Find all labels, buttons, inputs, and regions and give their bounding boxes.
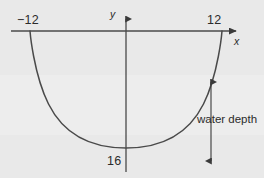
y-axis-label: y [110,9,115,20]
parabola-graph [0,0,264,178]
right-intercept-label: 12 [207,14,221,27]
left-intercept-label: −12 [17,14,39,27]
x-axis-label: x [234,36,239,47]
water-depth-annotation-label: water depth [197,114,257,126]
figure-container: −12 12 16 y x water depth [0,0,264,178]
vertex-depth-label: 16 [107,155,121,168]
